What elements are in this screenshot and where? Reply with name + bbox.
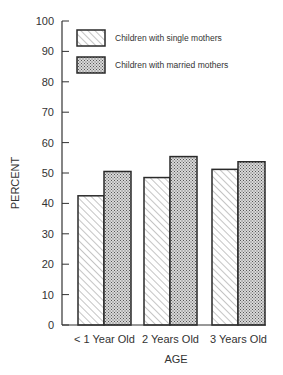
bar-chart: 0102030405060708090100 < 1 Year Old2 Yea… [0,0,283,375]
legend: Children with single mothersChildren wit… [77,30,228,73]
legend-swatch-married-mothers [77,57,105,73]
bar-married-mothers [238,162,265,325]
bar-single-mothers [144,178,170,325]
legend-label: Children with married mothers [115,60,228,70]
y-tick-label: 80 [42,76,54,88]
x-category-label: 3 Years Old [210,333,267,345]
y-tick-label: 60 [42,137,54,149]
y-tick-label: 40 [42,197,54,209]
y-tick-label: 100 [36,15,54,27]
y-tick-label: 50 [42,167,54,179]
bar-married-mothers [170,157,197,325]
legend-swatch-single-mothers [77,30,105,46]
y-tick-label: 90 [42,45,54,57]
bar-single-mothers [78,196,104,325]
y-axis-title: PERCENT [9,156,21,209]
y-tick-label: 20 [42,258,54,270]
bars [78,157,265,325]
y-tick-label: 10 [42,289,54,301]
x-category-label: 2 Years Old [142,333,199,345]
x-axis: < 1 Year Old2 Years Old3 Years Old [62,325,267,345]
bar-single-mothers [212,169,238,325]
y-tick-label: 0 [48,319,54,331]
x-axis-title: AGE [164,353,187,365]
bar-married-mothers [104,171,131,325]
y-axis: 0102030405060708090100 [36,15,69,331]
legend-label: Children with single mothers [115,33,222,43]
y-tick-label: 30 [42,228,54,240]
y-tick-label: 70 [42,106,54,118]
x-category-label: < 1 Year Old [74,333,135,345]
